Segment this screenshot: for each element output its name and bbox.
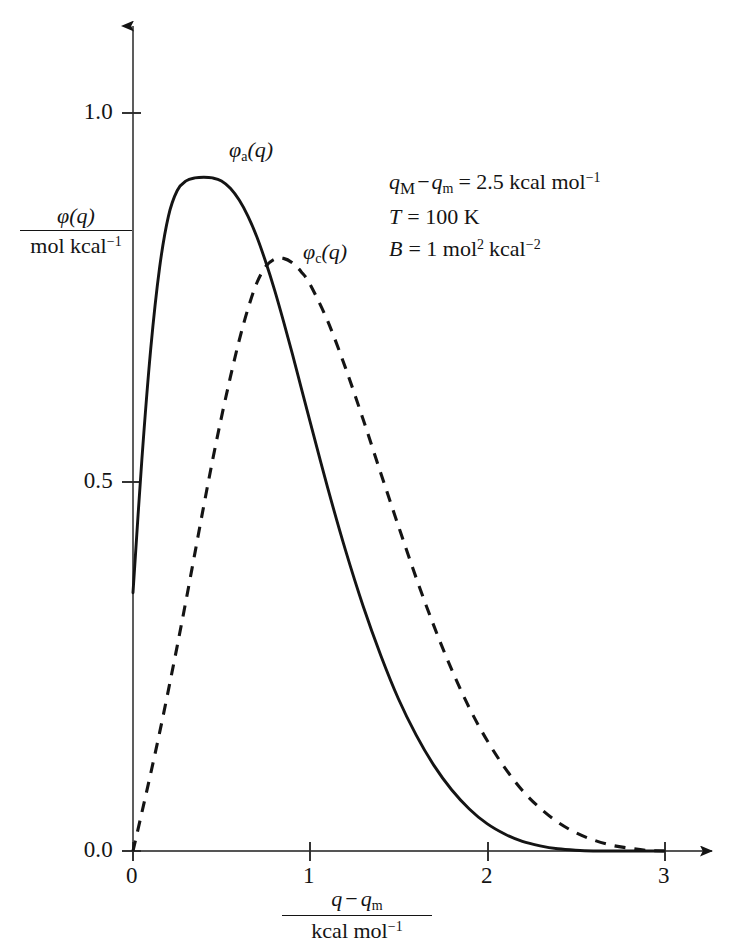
x-axis-unit: kcal mol <box>311 918 387 942</box>
y-axis-label-numerator: φ(q) <box>20 203 132 230</box>
x-tick-label-1: 1 <box>303 864 315 888</box>
qM-subscript: M <box>400 179 415 198</box>
x-tick-label-2: 2 <box>481 864 493 888</box>
annotation-row-temperature: T= 100 K <box>389 201 601 234</box>
x-axis-unit-exponent: −1 <box>388 919 403 934</box>
x-tick-label-3: 3 <box>658 864 670 888</box>
phi-c-symbol: φ <box>303 239 315 264</box>
b-value-unit: kcal <box>484 236 526 261</box>
qM-symbol: q <box>389 169 400 194</box>
annotation-row-q-difference: qM−qm= 2.5 kcal mol−1 <box>389 166 601 201</box>
q-minus-operator: − <box>415 169 431 194</box>
q-m-subscript: m <box>372 898 383 913</box>
y-axis-label-denominator: mol kcal−1 <box>20 230 132 259</box>
temperature-symbol: T <box>389 204 401 229</box>
x-axis-label-denominator: kcal mol−1 <box>282 915 432 942</box>
x-tick-label-0: 0 <box>126 864 138 888</box>
y-axis-label: φ(q) mol kcal−1 <box>20 203 132 259</box>
phi-a-symbol: φ <box>229 137 241 162</box>
curve-phi-a-solid <box>133 177 664 851</box>
x-axis-label-numerator: q−qm <box>282 886 432 915</box>
curve-label-phi-a: φa(q) <box>229 138 273 165</box>
y-axis-unit: mol kcal <box>30 233 106 258</box>
parameter-annotation-block: qM−qm= 2.5 kcal mol−1 T= 100 K B= 1 mol2… <box>389 166 601 266</box>
phi-argument: (q) <box>69 203 95 228</box>
minus-operator: − <box>342 886 360 911</box>
y-tick-label-1-0: 1.0 <box>58 100 113 124</box>
y-tick-label-0-5: 0.5 <box>58 469 113 493</box>
b-exponent-kcal: −2 <box>526 237 541 252</box>
b-value-prefix: = 1 mol <box>402 236 477 261</box>
q-m-symbol: q <box>361 886 372 911</box>
annotation-row-b-parameter: B= 1 mol2kcal−2 <box>389 233 601 266</box>
x-axis-label: q−qm kcal mol−1 <box>282 886 432 942</box>
b-symbol: B <box>389 236 402 261</box>
qm-subscript: m <box>443 181 454 196</box>
q-difference-value: = 2.5 kcal mol <box>453 169 585 194</box>
qm-symbol: q <box>432 169 443 194</box>
curve-label-phi-c: φc(q) <box>303 240 347 267</box>
y-axis-unit-exponent: −1 <box>107 234 122 249</box>
phi-c-argument: (q) <box>321 239 347 264</box>
temperature-value: = 100 K <box>401 204 479 229</box>
curve-phi-c-dashed <box>133 258 664 851</box>
figure-container: 1.0 0.5 0.0 0 1 2 3 φ(q) mol kcal−1 q−qm… <box>0 0 731 942</box>
phi-a-argument: (q) <box>247 137 273 162</box>
y-tick-label-0-0: 0.0 <box>58 838 113 862</box>
q-difference-exponent: −1 <box>586 170 601 185</box>
q-symbol: q <box>331 886 342 911</box>
phi-symbol: φ <box>57 203 69 228</box>
